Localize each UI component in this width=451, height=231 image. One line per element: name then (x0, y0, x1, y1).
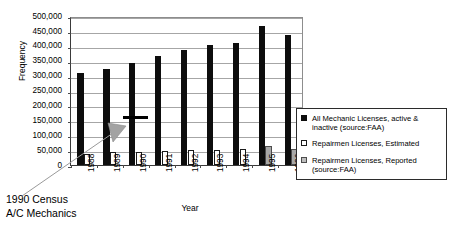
x-tick-mark (252, 165, 253, 168)
x-tick-mark (175, 165, 176, 168)
x-axis-tick-label: 1992 (191, 132, 200, 172)
y-axis-tick-label: 100,000 (6, 132, 62, 140)
bar (129, 63, 135, 165)
bar (77, 73, 83, 165)
x-axis-tick-label: 1994 (242, 132, 251, 172)
y-axis-tick-label: 450,000 (6, 28, 62, 36)
bar (103, 69, 109, 165)
x-axis-tick-label: 1990 (139, 132, 148, 172)
census-annotation-label: 1990 Census A/C Mechanics (6, 192, 77, 220)
bar-chart: Frequency 050,000100,000150,000200,00025… (0, 0, 451, 231)
x-axis-tick-label: 1991 (165, 132, 174, 172)
bar (233, 43, 239, 165)
census-marker-dash (123, 116, 148, 119)
y-axis-tick-label: 300,000 (6, 72, 62, 80)
legend-item: All Mechanic Licenses, active & inactive… (301, 114, 442, 132)
x-axis-tick-label: 1995 (268, 132, 277, 172)
bar (259, 26, 265, 165)
x-tick-mark (149, 165, 150, 168)
bar (181, 50, 187, 165)
x-tick-mark (97, 165, 98, 168)
bar (155, 56, 161, 165)
x-axis-tick-label: 1993 (216, 132, 225, 172)
x-axis-tick-label: 1988 (87, 132, 96, 172)
y-axis-tick-label: 250,000 (6, 87, 62, 95)
legend-item-label: All Mechanic Licenses, active & inactive… (312, 114, 442, 132)
bar (207, 45, 213, 165)
y-axis-tick-label: 400,000 (6, 42, 62, 50)
y-axis-tick-label: 50,000 (6, 147, 62, 155)
x-tick-mark (278, 165, 279, 168)
y-axis-tick-label: 500,000 (6, 13, 62, 21)
white-square-icon (301, 140, 307, 146)
y-axis-tick-label: 0 (6, 162, 62, 170)
x-axis-tick-label: 1989 (113, 132, 122, 172)
black-square-icon (301, 115, 307, 121)
legend-item-label: Repairmen Licenses, Estimated (312, 139, 442, 148)
chart-legend: All Mechanic Licenses, active & inactive… (296, 108, 447, 180)
legend-item: Repairmen Licenses, Reported (source:FAA… (301, 156, 442, 174)
x-tick-mark (71, 165, 72, 168)
y-axis-tick-label: 200,000 (6, 102, 62, 110)
legend-item: Repairmen Licenses, Estimated (301, 139, 442, 148)
x-tick-mark (226, 165, 227, 168)
bar (285, 35, 291, 165)
gray-square-icon (301, 157, 307, 163)
y-axis-tick-label: 150,000 (6, 117, 62, 125)
y-axis-tick-label: 350,000 (6, 57, 62, 65)
x-axis-title: Year (135, 203, 245, 213)
legend-item-label: Repairmen Licenses, Reported (source:FAA… (312, 156, 442, 174)
x-tick-mark (123, 165, 124, 168)
x-tick-mark (200, 165, 201, 168)
